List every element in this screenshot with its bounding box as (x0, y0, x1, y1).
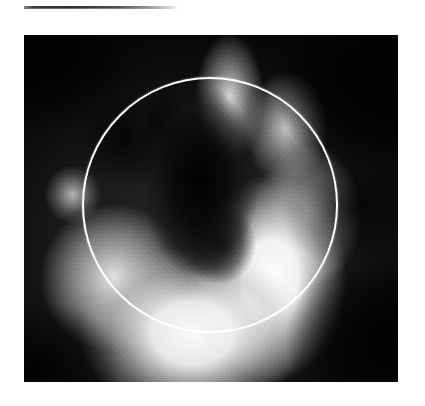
region-of-interest-circle (82, 77, 338, 333)
horizontal-rule (24, 6, 179, 9)
scintigram-image (24, 35, 398, 382)
